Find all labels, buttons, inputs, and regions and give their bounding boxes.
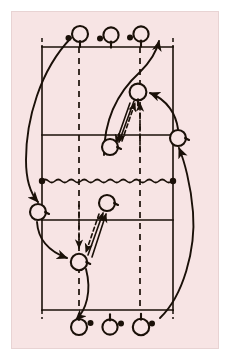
racket-head-icon [71,319,87,335]
racket-head-icon [130,84,147,101]
racket-head-icon [72,26,88,42]
racket-head-icon [30,204,46,220]
shuttlecock-icon [97,36,103,42]
net-post-left [39,178,45,184]
racket-head-icon [133,26,148,41]
racket-head-icon [170,130,186,146]
shuttlecock-icon [118,321,124,327]
racket-head-icon [71,254,87,270]
racket-head-icon [103,27,118,42]
shuttlecock-icon [66,35,72,41]
diagram-surface [0,0,230,360]
net-post-right [170,178,176,184]
badminton-court-diagram [0,0,230,360]
shuttlecock-icon [127,35,133,41]
racket-head-icon [133,319,149,335]
racket-head-icon [102,139,118,155]
figure-page [0,0,230,360]
racket-head-icon [102,319,117,334]
shuttlecock-icon [149,321,155,327]
shuttlecock-icon [88,320,94,326]
racket-head-icon [99,195,115,211]
